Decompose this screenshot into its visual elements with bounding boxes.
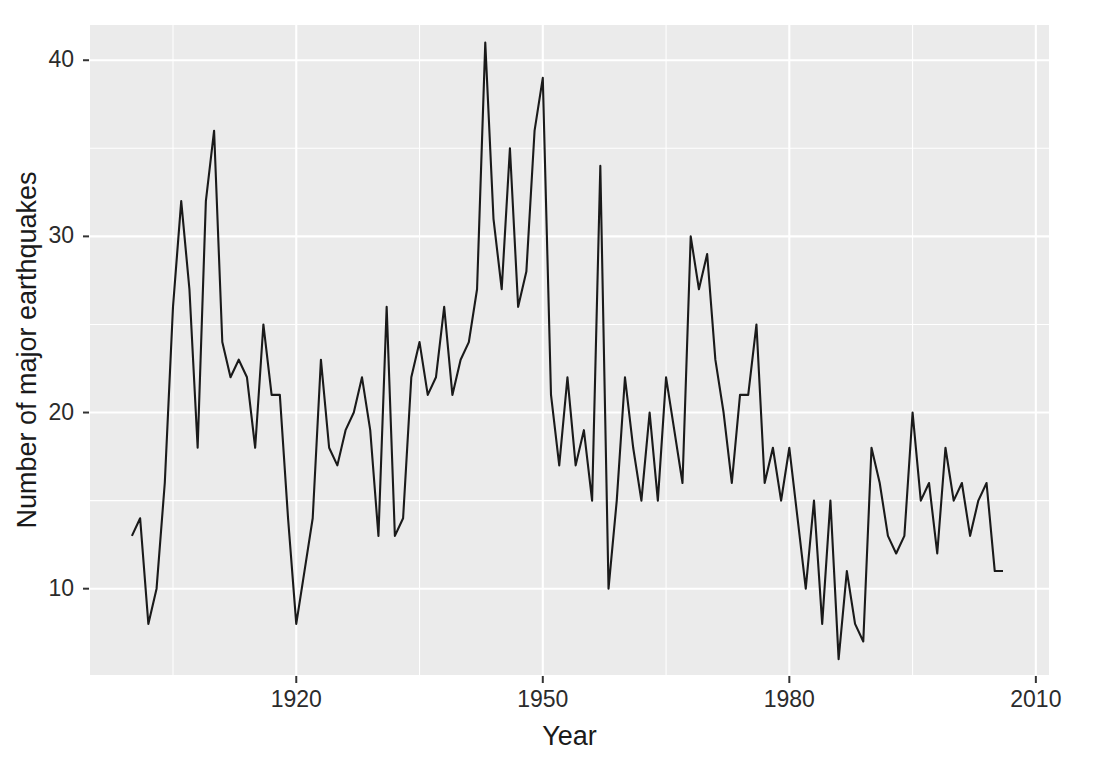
x-axis-tick-labels: 1920195019802010 — [271, 686, 1062, 712]
x-tick-label-1920: 1920 — [271, 686, 322, 712]
x-axis-title: Year — [542, 721, 597, 751]
x-tick-label-2010: 2010 — [1010, 686, 1061, 712]
y-tick-label-40: 40 — [48, 46, 74, 72]
earthquake-line-chart: 10203040 1920195019802010 Year Number of… — [0, 0, 1098, 768]
x-tick-label-1950: 1950 — [517, 686, 568, 712]
y-axis-ticks — [83, 60, 89, 588]
x-tick-label-1980: 1980 — [764, 686, 815, 712]
y-tick-label-30: 30 — [48, 222, 74, 248]
y-axis-tick-labels: 10203040 — [48, 46, 74, 600]
plot-panel-background — [90, 25, 1049, 675]
y-tick-label-10: 10 — [48, 575, 74, 601]
y-tick-label-20: 20 — [48, 399, 74, 425]
y-axis-title: Number of major earthquakes — [12, 171, 42, 528]
x-axis-ticks — [296, 676, 1036, 683]
chart-svg: 10203040 1920195019802010 Year Number of… — [0, 0, 1098, 768]
